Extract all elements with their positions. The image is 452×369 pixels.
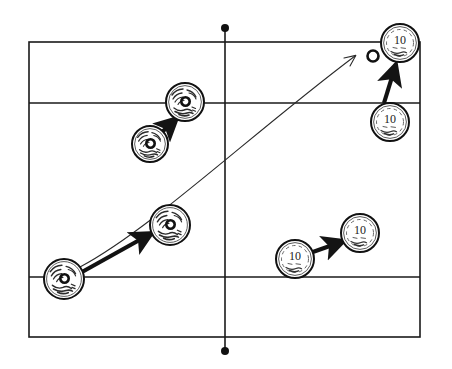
- axis-top-dot-marker: [221, 24, 229, 32]
- thick-arrow-lower-left-to-mid-left: [82, 233, 152, 272]
- token-label: 10: [354, 223, 366, 237]
- tokens-group: 10101010: [44, 24, 419, 299]
- token-label: 10: [394, 33, 406, 47]
- thick-arrow-top-right-pair: [384, 64, 396, 103]
- textured-token-upper-left-upper[interactable]: [166, 83, 204, 121]
- trajectory-arrow-group: [80, 56, 355, 267]
- numbered-token-top-right-upper[interactable]: 10: [381, 24, 419, 62]
- numbered-token-top-right-lower[interactable]: 10: [371, 103, 409, 141]
- numbered-token-bottom-right-left[interactable]: 10: [276, 240, 314, 278]
- target-ring-hole: [370, 53, 375, 58]
- thick-arrow-bottom-right-pair: [310, 241, 344, 253]
- textured-token-lower-left[interactable]: [44, 259, 84, 299]
- textured-token-mid-left[interactable]: [150, 205, 190, 245]
- open-ring-target-group: [368, 51, 379, 62]
- axis-bottom-dot-marker: [221, 347, 229, 355]
- textured-token-upper-left-lower[interactable]: [132, 126, 168, 162]
- thin-curved-trajectory-arrow: [80, 56, 355, 267]
- diagram-svg: 10101010: [0, 0, 452, 369]
- figure-canvas: 10101010: [0, 0, 452, 369]
- numbered-token-bottom-right-right[interactable]: 10: [341, 214, 379, 252]
- token-label: 10: [289, 249, 301, 263]
- board-group: [29, 24, 420, 355]
- token-label: 10: [384, 112, 396, 126]
